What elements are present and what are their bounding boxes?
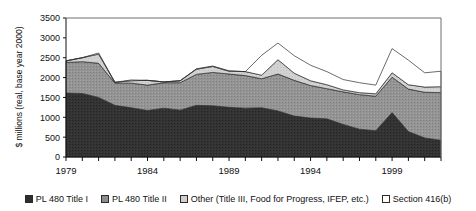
legend-swatch-icon xyxy=(382,195,390,203)
x-tick-label: 1979 xyxy=(55,165,76,176)
x-tick-label: 1999 xyxy=(382,165,403,176)
legend-item: Section 416(b) xyxy=(382,194,452,204)
legend-swatch-icon xyxy=(25,195,33,203)
legend-swatch-icon xyxy=(101,195,109,203)
y-tick-label: 0 xyxy=(55,152,60,162)
y-tick-label: 2500 xyxy=(40,53,60,63)
legend-item: PL 480 Title I xyxy=(25,194,88,204)
chart-legend: PL 480 Title IPL 480 Title IIOther (Titl… xyxy=(0,191,476,207)
legend-label: Other (Title III, Food for Progress, IFE… xyxy=(191,194,369,204)
legend-item: Other (Title III, Food for Progress, IFE… xyxy=(180,194,369,204)
x-tick-label: 1994 xyxy=(300,165,321,176)
y-tick-label: 2000 xyxy=(40,73,60,83)
legend-label: Section 416(b) xyxy=(393,194,452,204)
legend-item: PL 480 Title II xyxy=(101,194,167,204)
x-tick-label: 1989 xyxy=(218,165,239,176)
x-tick-label: 1984 xyxy=(137,165,158,176)
stacked-area-chart: 0500100015002000250030003500197919841989… xyxy=(0,0,476,211)
legend-label: PL 480 Title I xyxy=(36,194,88,204)
y-tick-label: 500 xyxy=(45,133,60,143)
legend-label: PL 480 Title II xyxy=(112,194,167,204)
y-tick-label: 3000 xyxy=(40,33,60,43)
y-tick-label: 1000 xyxy=(40,113,60,123)
legend-swatch-icon xyxy=(180,195,188,203)
y-tick-label: 1500 xyxy=(40,93,60,103)
y-tick-label: 3500 xyxy=(40,13,60,23)
chart-figure: $ millions (real, base year 2000) 050010… xyxy=(0,0,476,211)
